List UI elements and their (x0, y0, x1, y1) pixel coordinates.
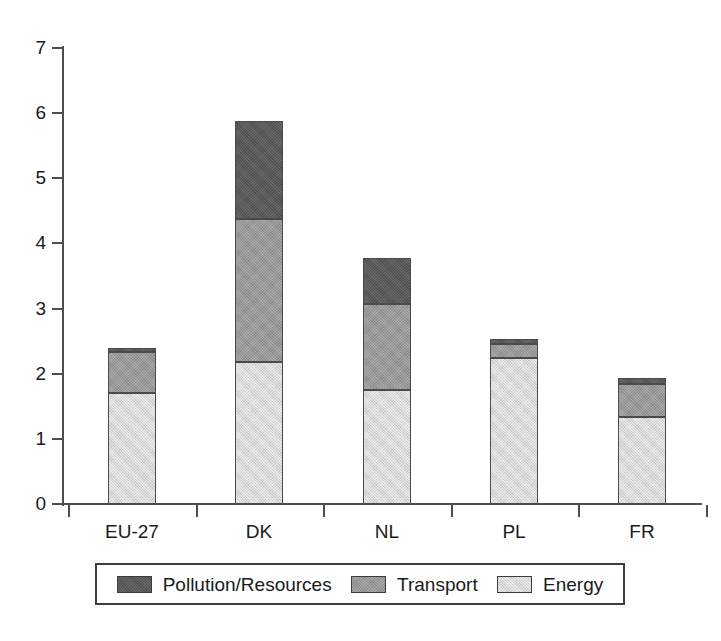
chart-legend: Pollution/ResourcesTransportEnergy (95, 563, 625, 605)
x-tick (706, 505, 708, 517)
bar-segment-pollution-resources (235, 121, 283, 219)
x-tick (578, 505, 580, 517)
bar-segment-energy (235, 362, 283, 504)
y-tick-label: 7 (12, 38, 46, 57)
x-axis-label-nl: NL (327, 521, 447, 543)
legend-swatch-icon (497, 576, 532, 593)
legend-swatch-icon (117, 576, 152, 593)
x-axis-label-pl: PL (454, 521, 574, 543)
y-tick-5 (52, 177, 62, 179)
y-tick-7 (52, 47, 62, 49)
bar-segment-transport (363, 304, 411, 390)
x-axis-label-eu-27: EU-27 (72, 521, 192, 543)
x-tick (196, 505, 198, 517)
x-tick (68, 505, 70, 517)
plot-area (62, 48, 700, 504)
legend-swatch-icon (351, 576, 386, 593)
y-tick-label: 3 (12, 299, 46, 318)
y-tick-label: 5 (12, 168, 46, 187)
y-tick-1 (52, 438, 62, 440)
y-tick-label: 1 (12, 429, 46, 448)
bar-segment-energy (490, 358, 538, 504)
bar-nl (363, 48, 411, 504)
bar-segment-energy (363, 390, 411, 504)
bar-segment-pollution-resources (108, 348, 156, 353)
bar-eu-27 (108, 48, 156, 504)
x-tick (323, 505, 325, 517)
y-tick-label: 4 (12, 233, 46, 252)
bar-segment-pollution-resources (490, 339, 538, 344)
legend-item: Energy (497, 575, 603, 594)
y-tick-2 (52, 373, 62, 375)
legend-label: Pollution/Resources (163, 575, 332, 594)
bar-segment-pollution-resources (618, 378, 666, 384)
legend-item: Transport (351, 575, 478, 594)
y-tick-label: 2 (12, 364, 46, 383)
y-tick-3 (52, 308, 62, 310)
y-tick-label: 6 (12, 103, 46, 122)
bar-segment-pollution-resources (363, 258, 411, 304)
y-tick-4 (52, 242, 62, 244)
y-tick-6 (52, 112, 62, 114)
bar-segment-transport (235, 219, 283, 362)
x-tick (451, 505, 453, 517)
stacked-bar-chart-figure: 01234567 EU-27DKNLPLFR Pollution/Resourc… (0, 0, 721, 641)
bar-segment-transport (618, 384, 666, 417)
bar-dk (235, 48, 283, 504)
legend-label: Energy (543, 575, 603, 594)
bar-segment-energy (108, 393, 156, 504)
bar-segment-transport (490, 344, 538, 358)
legend-label: Transport (397, 575, 478, 594)
y-tick-0 (52, 503, 62, 505)
y-tick-label: 0 (12, 494, 46, 513)
bar-segment-transport (108, 352, 156, 393)
bar-pl (490, 48, 538, 504)
bar-segment-energy (618, 417, 666, 504)
x-axis-label-fr: FR (582, 521, 702, 543)
bar-fr (618, 48, 666, 504)
legend-item: Pollution/Resources (117, 575, 332, 594)
caption-fragment (0, 628, 721, 641)
x-axis-label-dk: DK (199, 521, 319, 543)
